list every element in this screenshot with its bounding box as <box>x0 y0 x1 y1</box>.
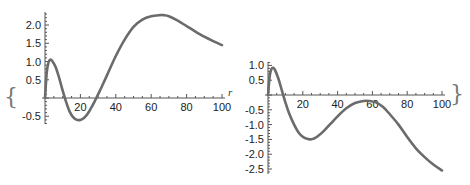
y-tick-label: 1.0 <box>26 56 41 68</box>
y-tick-label: -1.0 <box>245 119 264 131</box>
close-brace-decoration: } <box>450 81 464 106</box>
y-tick-label: 2.0 <box>26 19 41 31</box>
x-tick-label: 40 <box>331 98 343 110</box>
x-tick-label: 80 <box>180 101 192 113</box>
y-tick-label: -1.5 <box>245 133 264 145</box>
x-tick-label: 20 <box>297 98 309 110</box>
y-tick-label: 1.5 <box>26 37 41 49</box>
y-tick-label: 0.5 <box>26 74 41 86</box>
x-tick-label: 100 <box>213 101 231 113</box>
right-plot: 20406080100-2.5-2.0-1.5-1.0-0.50.51.0 <box>245 59 451 175</box>
y-tick-label: 0.5 <box>249 74 264 86</box>
x-tick-label: 20 <box>74 101 86 113</box>
y-tick-label: -0.5 <box>245 104 264 116</box>
data-curve <box>268 68 442 171</box>
x-axis-variable-label: r <box>228 86 233 98</box>
y-tick-label: -2.5 <box>245 163 264 175</box>
y-tick-label: 1.0 <box>249 59 264 71</box>
x-tick-label: 40 <box>110 101 122 113</box>
x-tick-label: 80 <box>401 98 413 110</box>
open-brace-decoration: { <box>4 84 18 109</box>
chart-canvas: { 20406080100-0.50.51.01.52.0 2040608010… <box>0 0 470 185</box>
y-tick-label: -0.5 <box>22 110 41 122</box>
y-tick-label: -2.0 <box>245 148 264 160</box>
left-plot: 20406080100-0.50.51.01.52.0 <box>22 12 231 124</box>
data-curve <box>45 15 222 120</box>
x-tick-label: 60 <box>145 101 157 113</box>
x-tick-label: 100 <box>433 98 451 110</box>
